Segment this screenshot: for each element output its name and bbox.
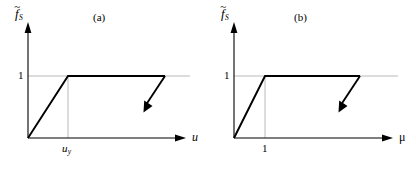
- panel-tag-a: (a): [93, 12, 105, 23]
- y-axis-tilde-accent-b: ~: [220, 1, 226, 12]
- panel-a-plot: [0, 0, 208, 169]
- panel-a: (a) ~ f S 1 uy u: [0, 0, 208, 169]
- y-axis-subscript-a: S: [19, 13, 23, 22]
- y-tick-label-a: 1: [18, 70, 24, 81]
- panel-b: (b) ~ f S 1 1 μ: [208, 0, 416, 169]
- x-axis-label-b: μ: [399, 131, 405, 143]
- y-axis-symbol-base-b: ~ f: [221, 7, 225, 20]
- y-tick-label-b: 1: [224, 70, 230, 81]
- unloading-branch-line: [147, 76, 166, 104]
- y-axis-tilde-accent-a: ~: [14, 1, 20, 12]
- panel-b-plot: [208, 0, 416, 169]
- x-axis-label-a: u: [192, 131, 198, 143]
- y-axis-subscript-b: S: [225, 13, 229, 22]
- x-axis-arrowhead: [175, 134, 186, 141]
- x-tick-label-b: 1: [262, 143, 268, 156]
- y-axis-label-a: ~ f S: [15, 7, 23, 22]
- figure-container: (a) ~ f S 1 uy u: [0, 0, 416, 169]
- unloading-branch-line: [342, 76, 361, 104]
- x-axis-arrowhead: [382, 134, 393, 141]
- x-tick-base-a: u: [62, 142, 68, 154]
- y-axis-arrowhead: [25, 22, 32, 33]
- panel-tag-b: (b): [294, 12, 307, 23]
- x-tick-base-b: 1: [262, 142, 268, 154]
- y-axis-arrowhead: [231, 22, 238, 33]
- y-axis-label-b: ~ f S: [221, 7, 229, 22]
- y-axis-symbol-base-a: ~ f: [15, 7, 19, 20]
- x-tick-subscript-a: y: [68, 147, 72, 156]
- x-tick-label-a: uy: [62, 143, 71, 156]
